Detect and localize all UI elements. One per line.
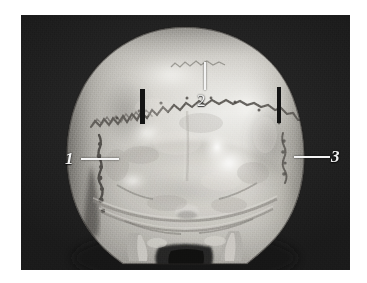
reference-mark-left — [140, 89, 145, 124]
leader-line-3 — [294, 156, 330, 158]
figure-root: 1 2 3 — [0, 0, 367, 283]
annotation-label-2: 2 — [197, 92, 206, 109]
annotation-label-3: 3 — [331, 148, 340, 165]
leader-line-1 — [81, 158, 119, 160]
reference-mark-right — [277, 87, 281, 123]
skull-photograph: 1 2 3 — [21, 15, 350, 270]
annotation-label-1: 1 — [65, 150, 74, 167]
leader-line-2 — [204, 62, 206, 90]
photo-film-grain — [21, 15, 350, 270]
